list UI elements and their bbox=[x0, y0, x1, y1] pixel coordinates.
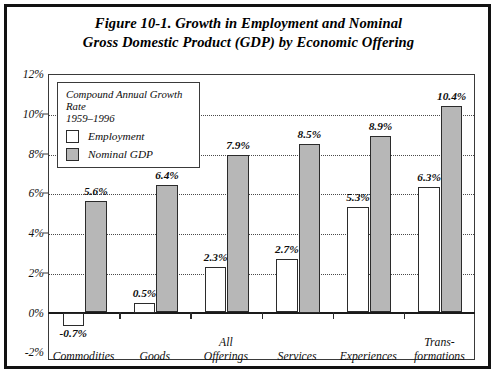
legend-title-line-1: Compound Annual Growth Rate bbox=[66, 88, 182, 112]
category-label-line bbox=[340, 336, 397, 350]
category-label-line: Offerings bbox=[204, 350, 248, 364]
bar-value-label-nominal-gdp-1: 6.4% bbox=[155, 169, 179, 181]
x-axis-tick-3 bbox=[262, 312, 264, 319]
category-label-commodities: Commodities bbox=[53, 336, 115, 363]
bar-value-label-employment-5: 6.3% bbox=[417, 171, 441, 183]
category-label-services: Services bbox=[278, 336, 317, 363]
bar-value-label-employment-2: 2.3% bbox=[204, 251, 228, 263]
figure-title-line-2: Gross Domestic Product (GDP) by Economic… bbox=[24, 33, 473, 52]
category-label-line: All bbox=[204, 336, 248, 350]
x-axis-tick-5 bbox=[404, 312, 406, 319]
bar-value-label-nominal-gdp-0: 5.6% bbox=[84, 185, 108, 197]
category-label-line bbox=[278, 336, 317, 350]
category-label-line bbox=[53, 336, 115, 350]
x-axis-tick-1 bbox=[119, 312, 121, 319]
legend-title: Compound Annual Growth Rate 1959–1996 bbox=[66, 88, 192, 125]
bar-employment-0[interactable] bbox=[63, 313, 85, 327]
bar-employment-2[interactable] bbox=[205, 267, 227, 313]
bar-value-label-nominal-gdp-2: 7.9% bbox=[226, 139, 250, 151]
legend-label-employment: Employment bbox=[88, 130, 144, 142]
bar-employment-4[interactable] bbox=[347, 207, 369, 312]
category-label-line: Trans- bbox=[414, 336, 465, 350]
figure-container: Figure 10-1. Growth in Employment and No… bbox=[0, 0, 497, 375]
legend-swatch-nominal-gdp bbox=[66, 148, 79, 161]
bar-nominal-gdp-4[interactable] bbox=[370, 136, 392, 313]
bar-nominal-gdp-3[interactable] bbox=[299, 144, 321, 313]
legend-title-line-2: 1959–1996 bbox=[66, 112, 115, 124]
bar-value-label-nominal-gdp-4: 8.9% bbox=[369, 120, 393, 132]
category-label-trans-formations: Trans-formations bbox=[414, 336, 465, 363]
category-label-line: Goods bbox=[139, 350, 170, 364]
category-label-line: Services bbox=[278, 350, 317, 364]
bar-nominal-gdp-5[interactable] bbox=[441, 106, 463, 313]
legend-label-nominal-gdp: Nominal GDP bbox=[88, 148, 153, 160]
category-label-line: Commodities bbox=[53, 350, 115, 364]
category-label-goods: Goods bbox=[139, 336, 170, 363]
category-label-all-offerings: AllOfferings bbox=[204, 336, 248, 363]
bar-value-label-nominal-gdp-3: 8.5% bbox=[297, 128, 321, 140]
category-label-experiences: Experiences bbox=[340, 336, 397, 363]
bar-value-label-employment-1: 0.5% bbox=[133, 287, 157, 299]
legend-item-employment: Employment bbox=[66, 130, 192, 143]
bar-employment-3[interactable] bbox=[276, 259, 298, 313]
x-axis-tick-4 bbox=[333, 312, 335, 319]
bar-nominal-gdp-1[interactable] bbox=[156, 185, 178, 312]
x-axis-tick-2 bbox=[190, 312, 192, 319]
bar-employment-1[interactable] bbox=[134, 303, 156, 313]
bar-value-label-nominal-gdp-5: 10.4% bbox=[437, 90, 466, 102]
figure-title: Figure 10-1. Growth in Employment and No… bbox=[24, 14, 473, 52]
chart-legend: Compound Annual Growth Rate 1959–1996 Em… bbox=[57, 82, 200, 168]
bar-value-label-employment-4: 5.3% bbox=[346, 191, 370, 203]
bar-nominal-gdp-0[interactable] bbox=[85, 201, 107, 312]
category-label-line: formations bbox=[414, 350, 465, 364]
category-label-line: Experiences bbox=[340, 350, 397, 364]
figure-title-line-1: Figure 10-1. Growth in Employment and No… bbox=[24, 14, 473, 33]
category-label-line bbox=[139, 336, 170, 350]
legend-swatch-employment bbox=[66, 130, 79, 143]
legend-item-nominal-gdp: Nominal GDP bbox=[66, 148, 192, 161]
bar-value-label-employment-3: 2.7% bbox=[275, 243, 299, 255]
bar-employment-5[interactable] bbox=[418, 187, 440, 312]
bar-nominal-gdp-2[interactable] bbox=[227, 155, 249, 312]
